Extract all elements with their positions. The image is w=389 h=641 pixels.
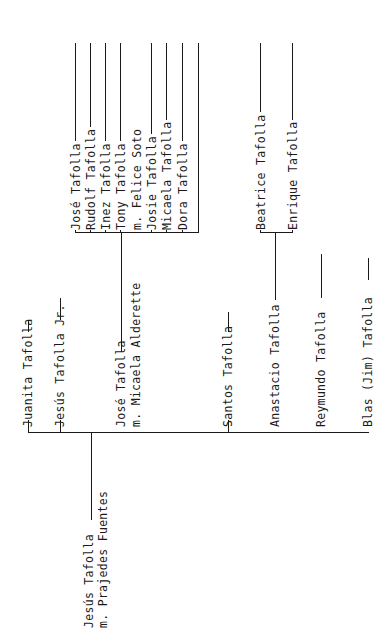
child-jose: José Tafolla bbox=[115, 340, 127, 427]
grandchild-dora: Dora Tafolla bbox=[177, 141, 189, 230]
root-name: Jesús Tafolla bbox=[83, 534, 95, 628]
grandchild-tony-spouse: m. Felice Soto bbox=[131, 129, 143, 230]
line-juanita bbox=[28, 320, 29, 332]
root-spouse: m. Prajedes Fuentes bbox=[97, 491, 109, 628]
line-santos bbox=[228, 312, 229, 332]
child-santos: Santos Tafolla bbox=[222, 326, 234, 427]
children-bar bbox=[28, 432, 369, 433]
line-reymundo bbox=[321, 254, 322, 298]
child-blas: Blas (Jim) Tafolla bbox=[362, 297, 374, 427]
grandchild-micaela: Micaela Tafolla bbox=[161, 120, 173, 230]
grandchild-jose: José Tafolla bbox=[70, 141, 82, 230]
grandchild-tony: Tony Tafolla bbox=[115, 141, 127, 230]
child-reymundo: Reymundo Tafolla bbox=[315, 311, 327, 427]
root-connector bbox=[91, 432, 92, 520]
jose-children-bar bbox=[75, 232, 199, 233]
grandchild-enrique: Enrique Tafolla bbox=[287, 120, 299, 230]
line-blas bbox=[368, 258, 369, 280]
child-juanita: Juanita Tafolla bbox=[22, 319, 34, 427]
grandchild-inez: Inez Tafolla bbox=[100, 141, 112, 230]
grandchild-beatrice: Beatrice Tafolla bbox=[255, 112, 267, 230]
connector-jose bbox=[121, 232, 122, 352]
grandchild-rudolf: Rudolf Tafolla bbox=[85, 127, 97, 230]
anastacio-children-bar bbox=[260, 232, 293, 233]
child-anastacio: Anastacio Tafolla bbox=[269, 304, 281, 427]
child-jose-spouse: m. Micaela Alderette bbox=[130, 283, 142, 427]
connector-anastacio bbox=[275, 232, 276, 300]
line-jesus-jr bbox=[60, 298, 61, 320]
jose-bracket-end bbox=[198, 43, 199, 233]
child-jesus-jr: Jesús Tafolla Jr. bbox=[54, 304, 66, 427]
grandchild-josie: Josie Tafolla bbox=[146, 134, 158, 230]
